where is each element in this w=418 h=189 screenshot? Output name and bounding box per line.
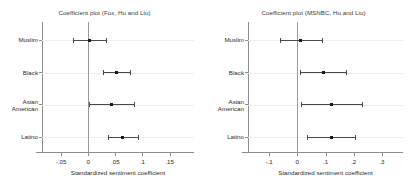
- x-axis-tick: [170, 153, 171, 156]
- confidence-interval-cap-lower: [280, 38, 281, 43]
- x-axis-tick: [297, 153, 298, 156]
- y-axis-tick: [245, 137, 248, 138]
- y-axis-tick: [245, 104, 248, 105]
- x-axis-tick-label: .05: [111, 158, 120, 165]
- confidence-interval-cap-upper: [138, 135, 139, 140]
- panel-title-msnbc: Coefficient plot (MSNBC, Hu and Liu): [209, 9, 418, 16]
- y-axis-label-muslim: Muslim: [18, 37, 38, 44]
- x-axis-tick: [88, 153, 89, 156]
- confidence-interval-cap-upper: [362, 102, 363, 107]
- point-estimate-marker: [88, 39, 91, 42]
- y-axis-tick: [245, 72, 248, 73]
- y-axis-label-black: Black: [229, 69, 244, 76]
- point-estimate-marker: [115, 71, 118, 74]
- confidence-interval-cap-lower: [108, 135, 109, 140]
- x-axis-tick-label: .1: [323, 158, 328, 165]
- y-axis-tick: [39, 137, 42, 138]
- point-estimate-marker: [299, 39, 302, 42]
- y-axis-label-muslim: Muslim: [224, 37, 244, 44]
- x-axis-tick: [382, 153, 383, 156]
- x-axis-title-fox: Standardized sentiment coefficient: [42, 169, 194, 176]
- x-axis-tick: [142, 153, 143, 156]
- confidence-interval-cap-lower: [89, 102, 90, 107]
- x-axis-tick: [269, 153, 270, 156]
- point-estimate-marker: [322, 71, 325, 74]
- x-axis-tick-label: -.1: [266, 158, 273, 165]
- panel-msnbc: Coefficient plot (MSNBC, Hu and Liu) Sta…: [209, 0, 418, 189]
- confidence-interval-cap-upper: [106, 38, 107, 43]
- confidence-interval-cap-upper: [322, 38, 323, 43]
- confidence-interval-cap-lower: [300, 70, 301, 75]
- y-axis-line-fox: [42, 22, 43, 153]
- confidence-interval-cap-lower: [73, 38, 74, 43]
- y-axis-label-latino: Latino: [227, 134, 244, 141]
- y-axis-line-msnbc: [248, 22, 249, 153]
- x-axis-tick-label: 0: [86, 158, 89, 165]
- x-axis-title-msnbc: Standardized sentiment coefficient: [248, 169, 403, 176]
- point-estimate-marker: [110, 103, 113, 106]
- y-axis-label-asian-american: AsianAmerican: [218, 98, 244, 112]
- plot-area-msnbc: Standardized sentiment coefficient Musli…: [248, 22, 403, 153]
- y-axis-label-latino: Latino: [21, 134, 38, 141]
- x-axis-line-msnbc: [242, 152, 403, 153]
- y-axis-label-asian-american: AsianAmerican: [12, 98, 38, 112]
- point-estimate-marker: [330, 103, 333, 106]
- gridline: [42, 40, 194, 41]
- plot-area-fox: Standardized sentiment coefficient Musli…: [42, 22, 194, 153]
- y-axis-tick: [245, 40, 248, 41]
- confidence-interval-cap-lower: [103, 70, 104, 75]
- y-axis-label-black: Black: [23, 69, 38, 76]
- x-axis-tick-label: -.05: [56, 158, 67, 165]
- zero-reference-line: [297, 22, 298, 153]
- panel-fox: Coefficient plot (Fox, Hu and Liu) Stand…: [0, 0, 209, 189]
- panel-title-fox: Coefficient plot (Fox, Hu and Liu): [0, 9, 209, 16]
- x-axis-tick: [326, 153, 327, 156]
- y-axis-tick: [39, 40, 42, 41]
- coefficient-plot-figure: Coefficient plot (Fox, Hu and Liu) Stand…: [0, 0, 418, 189]
- confidence-interval-cap-upper: [134, 102, 135, 107]
- x-axis-tick: [61, 153, 62, 156]
- confidence-interval-cap-upper: [346, 70, 347, 75]
- gridline: [248, 40, 403, 41]
- x-axis-tick-label: .2: [351, 158, 356, 165]
- y-axis-tick: [39, 104, 42, 105]
- x-axis-tick-label: .15: [165, 158, 174, 165]
- confidence-interval-cap-lower: [307, 135, 308, 140]
- x-axis-tick: [115, 153, 116, 156]
- x-axis-tick-label: .1: [140, 158, 145, 165]
- point-estimate-marker: [330, 136, 333, 139]
- x-axis-tick-label: 0: [296, 158, 299, 165]
- x-axis-tick: [354, 153, 355, 156]
- point-estimate-marker: [121, 136, 124, 139]
- y-axis-tick: [39, 72, 42, 73]
- confidence-interval-cap-upper: [130, 70, 131, 75]
- confidence-interval-cap-upper: [355, 135, 356, 140]
- confidence-interval-cap-lower: [301, 102, 302, 107]
- x-axis-tick-label: .3: [379, 158, 384, 165]
